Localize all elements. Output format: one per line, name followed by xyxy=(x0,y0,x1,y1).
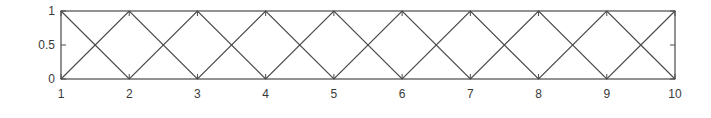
x-tick-label: 4 xyxy=(262,87,269,101)
plot-lines xyxy=(61,11,675,79)
x-tick-label: 6 xyxy=(399,87,406,101)
x-tick-label: 3 xyxy=(194,87,201,101)
x-tick-label: 8 xyxy=(535,87,542,101)
x-tick-label: 5 xyxy=(331,87,338,101)
x-tick-label: 9 xyxy=(603,87,610,101)
x-tick-label: 10 xyxy=(668,87,682,101)
x-axis: 12345678910 xyxy=(58,11,682,101)
line-chart: 00.51 12345678910 xyxy=(0,0,711,118)
y-tick-label: 0.5 xyxy=(38,38,55,52)
y-tick-label: 1 xyxy=(48,4,55,18)
y-tick-label: 0 xyxy=(48,72,55,86)
x-tick-label: 2 xyxy=(126,87,133,101)
x-tick-label: 1 xyxy=(58,87,65,101)
line-series-2 xyxy=(61,11,675,79)
x-tick-label: 7 xyxy=(467,87,474,101)
